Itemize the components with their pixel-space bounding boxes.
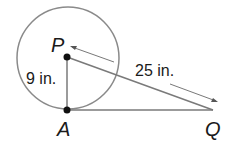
measure-pq: 25 in. (135, 62, 174, 80)
label-q: Q (205, 118, 221, 141)
dimension-arrow-right (170, 84, 216, 101)
point-a (64, 107, 71, 114)
label-p: P (51, 34, 64, 57)
arrowhead-right-icon (211, 98, 218, 102)
arrowhead-left-icon (70, 46, 77, 50)
dimension-arrow-left (72, 47, 114, 62)
label-a: A (57, 118, 70, 141)
measure-pa: 9 in. (26, 70, 56, 88)
geometry-diagram: P A Q 9 in. 25 in. (0, 0, 244, 152)
point-p (64, 54, 71, 61)
